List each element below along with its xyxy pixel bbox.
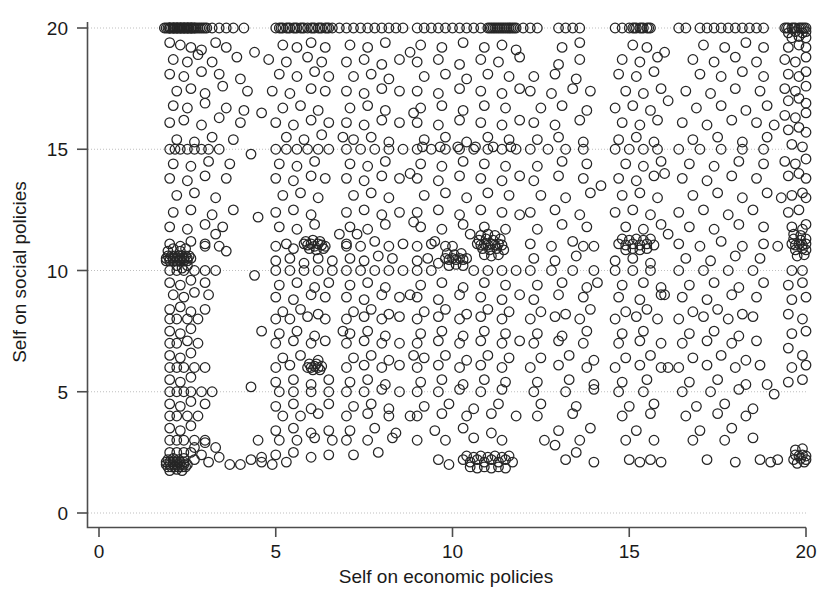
- figure-background: [0, 0, 818, 595]
- x-tick-label: 0: [94, 541, 105, 562]
- y-tick-label: 15: [47, 139, 68, 160]
- x-tick-label: 10: [442, 541, 463, 562]
- y-tick-label: 10: [47, 261, 68, 282]
- x-tick-label: 5: [270, 541, 281, 562]
- y-tick-label: 20: [47, 18, 68, 39]
- x-tick-label: 15: [619, 541, 640, 562]
- y-tick-label: 5: [57, 382, 68, 403]
- x-tick-label: 20: [795, 541, 816, 562]
- y-axis-label: Self on social policies: [9, 181, 30, 363]
- scatter-plot-figure: 0510152005101520 Self on economic polici…: [0, 0, 818, 595]
- y-tick-label: 0: [57, 503, 68, 524]
- x-axis-label: Self on economic policies: [339, 566, 553, 587]
